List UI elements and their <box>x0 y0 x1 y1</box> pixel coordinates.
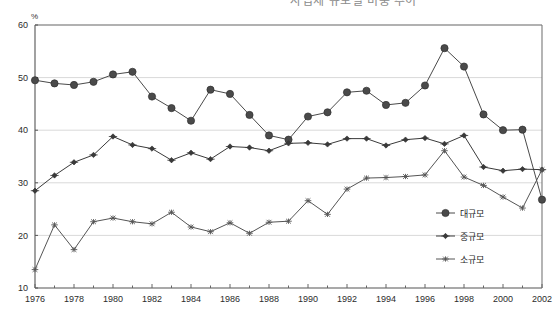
y-tick-label: 10 <box>18 283 28 293</box>
data-point-marker <box>187 117 194 124</box>
data-point-marker <box>460 63 467 70</box>
legend-item-1[interactable]: 대규모 <box>436 209 484 219</box>
x-tick-label: 2000 <box>493 294 513 304</box>
x-tick-label: 1980 <box>103 294 123 304</box>
x-tick-label: 1986 <box>220 294 240 304</box>
data-point-marker <box>382 101 389 108</box>
chart-plot-svg: 1020304050601976197819801982198419861988… <box>0 0 557 323</box>
x-tick-label: 1988 <box>259 294 279 304</box>
data-point-marker <box>90 78 97 85</box>
legend-label: 대규모 <box>460 209 484 219</box>
y-tick-label: 60 <box>18 20 28 30</box>
data-point-marker <box>168 105 175 112</box>
data-point-marker <box>421 82 428 89</box>
x-tick-label: 1978 <box>64 294 84 304</box>
x-tick-label: 1982 <box>142 294 162 304</box>
data-point-marker <box>129 68 136 75</box>
y-tick-label: 30 <box>18 178 28 188</box>
x-tick-label: 2002 <box>532 294 552 304</box>
data-point-marker <box>148 93 155 100</box>
data-point-marker <box>31 77 38 84</box>
data-point-marker <box>70 81 77 88</box>
legend-item-2[interactable]: 중규모 <box>436 232 484 242</box>
legend-item-3[interactable]: 소규모 <box>436 255 484 265</box>
data-point-marker <box>265 132 272 139</box>
data-point-marker <box>226 90 233 97</box>
data-point-marker <box>304 113 311 120</box>
data-point-marker <box>441 45 448 52</box>
x-tick-label: 1998 <box>454 294 474 304</box>
x-tick-label: 1994 <box>376 294 396 304</box>
data-point-marker <box>519 126 526 133</box>
x-tick-label: 1996 <box>415 294 435 304</box>
data-point-marker <box>109 71 116 78</box>
data-point-marker <box>207 86 214 93</box>
y-tick-label: 40 <box>18 125 28 135</box>
data-point-marker <box>442 209 449 216</box>
data-point-marker <box>480 111 487 118</box>
x-tick-label: 1990 <box>298 294 318 304</box>
data-point-marker <box>324 109 331 116</box>
data-point-marker <box>343 89 350 96</box>
y-tick-label: 50 <box>18 73 28 83</box>
legend-label: 중규모 <box>460 232 484 242</box>
data-point-marker <box>402 99 409 106</box>
series-2 <box>31 133 546 194</box>
x-tick-label: 1984 <box>181 294 201 304</box>
chart-legend: 대규모중규모소규모 <box>436 209 484 265</box>
data-point-marker <box>499 127 506 134</box>
x-tick-label: 1992 <box>337 294 357 304</box>
chart-container: 사업체 규모별 비중 추이 % 102030405060197619781980… <box>0 0 557 323</box>
data-point-marker <box>363 87 370 94</box>
x-axis-ticks: 1976197819801982198419861988199019921994… <box>25 284 552 304</box>
data-point-marker <box>246 111 253 118</box>
legend-label: 소규모 <box>460 255 484 265</box>
data-point-marker <box>51 80 58 87</box>
grid-lines <box>35 25 542 235</box>
x-tick-label: 1976 <box>25 294 45 304</box>
y-tick-label: 20 <box>18 231 28 241</box>
data-point-marker <box>538 196 545 203</box>
